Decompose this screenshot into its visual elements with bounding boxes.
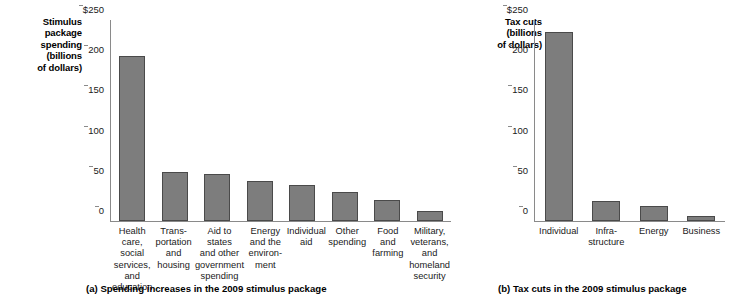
y-tick-label-tax-cuts: 100	[512, 126, 535, 136]
y-tick-mark-tax-cuts	[513, 166, 517, 167]
panel-caption-tax-cuts: (b) Tax cuts in the 2009 stimulus packag…	[498, 283, 687, 295]
bar-slot	[196, 20, 239, 221]
x-axis-category-label: Food and farming	[368, 226, 409, 293]
bar-slot	[535, 20, 583, 221]
bar	[119, 56, 145, 221]
y-tick-mark-tax-cuts	[508, 85, 512, 86]
tax-cuts-chart-panel: Tax cuts (billions of dollars) 050100150…	[462, 0, 743, 303]
x-axis-category-label: Infra- structure	[583, 226, 631, 248]
y-tick-mark-tax-cuts	[503, 5, 507, 6]
y-tick-label-spending: 150	[88, 85, 111, 95]
bar-slot	[409, 20, 452, 221]
y-tick-mark-tax-cuts	[508, 45, 512, 46]
bar-slot	[583, 20, 631, 221]
bar	[204, 174, 230, 221]
y-tick-mark-spending	[89, 166, 93, 167]
spending-chart-panel: Stimulus package spending (billions of d…	[0, 0, 462, 303]
y-tick-mark-tax-cuts	[508, 126, 512, 127]
bar-slot	[154, 20, 197, 221]
x-axis-labels-tax-cuts: IndividualInfra- structureEnergyBusiness	[535, 221, 725, 248]
bar-series-tax-cuts	[535, 20, 725, 221]
bar	[417, 211, 443, 221]
bar-slot	[111, 20, 154, 221]
y-tick-label-spending: 200	[88, 45, 111, 55]
bar	[592, 201, 620, 221]
y-tick-mark-spending	[95, 206, 99, 207]
y-tick-label-tax-cuts: 50	[517, 166, 535, 176]
panel-caption-spending: (a) Spending increases in the 2009 stimu…	[86, 283, 326, 295]
y-tick-mark-spending	[84, 126, 88, 127]
y-tick-label-tax-cuts: 150	[512, 85, 535, 95]
y-tick-label-tax-cuts: $250	[507, 5, 535, 15]
y-tick-mark-spending	[84, 45, 88, 46]
y-tick-mark-tax-cuts	[519, 206, 523, 207]
x-axis-category-label: Military, veterans, and homeland securit…	[408, 226, 451, 293]
x-axis-category-label: Business	[678, 226, 726, 248]
x-axis-category-label: Other spending	[327, 226, 368, 293]
y-tick-label-tax-cuts: 200	[512, 45, 535, 55]
y-tick-label-spending: 50	[93, 166, 111, 176]
bar	[162, 172, 188, 221]
y-axis-title-spending: Stimulus package spending (billions of d…	[4, 16, 82, 73]
y-tick-mark-spending	[84, 85, 88, 86]
x-axis-category-label: Energy	[630, 226, 678, 248]
bar	[247, 181, 273, 221]
y-tick-label-tax-cuts: 0	[523, 206, 535, 216]
bar-slot	[281, 20, 324, 221]
bar-slot	[678, 20, 726, 221]
bar	[289, 185, 315, 221]
plot-area-spending: 050100150200$250 Health care, social ser…	[110, 20, 451, 222]
x-axis-category-label: Individual	[535, 226, 583, 248]
bar-slot	[324, 20, 367, 221]
y-tick-mark-spending	[79, 5, 83, 6]
y-tick-label-spending: $250	[83, 5, 111, 15]
y-tick-label-spending: 0	[99, 206, 111, 216]
bar	[640, 206, 668, 221]
y-tick-label-spending: 100	[88, 126, 111, 136]
bar-series-spending	[111, 20, 451, 221]
plot-area-tax-cuts: 050100150200$250 IndividualInfra- struct…	[534, 20, 725, 222]
bar-slot	[366, 20, 409, 221]
bar	[332, 192, 358, 221]
bar	[545, 32, 573, 221]
bar-slot	[630, 20, 678, 221]
bar	[374, 200, 400, 221]
bar-slot	[239, 20, 282, 221]
